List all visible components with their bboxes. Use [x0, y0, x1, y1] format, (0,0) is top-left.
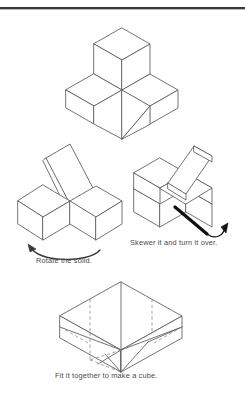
diagram-page: Rotate the solid. [0, 0, 245, 394]
top-divider-rule-shadow [0, 9, 245, 10]
figure-completed-cube [58, 280, 188, 380]
caption-rotate-the-solid: Rotate the solid. [36, 257, 92, 264]
figure-solid-assembly [0, 18, 245, 143]
caption-skewer-it-and-turn-it-over: Skewer it and turn it over. [130, 239, 217, 246]
caption-fit-it-together-to-make-a-cube: Fit it together to make a cube. [55, 372, 157, 379]
